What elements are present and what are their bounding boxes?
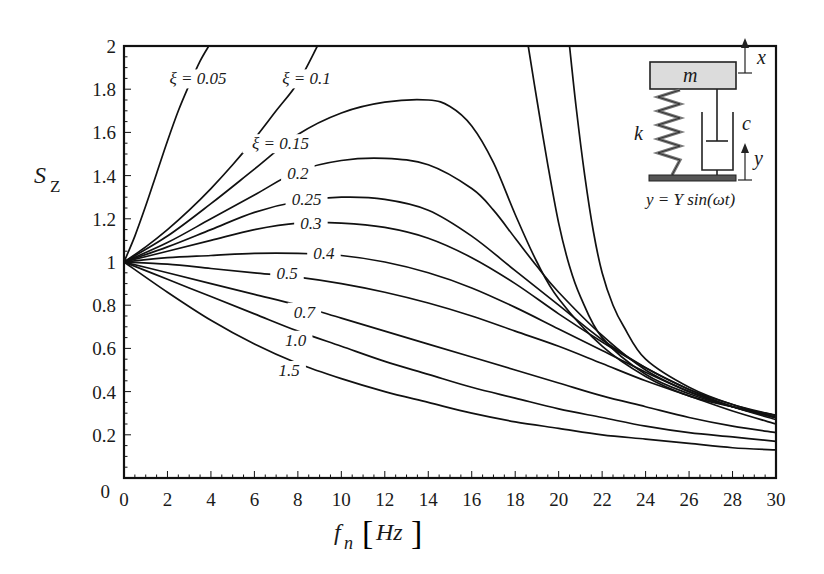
x-tick-label: 0 (119, 489, 129, 510)
curve-label: 0.3 (300, 214, 321, 233)
curve-series (124, 262, 776, 450)
x-tick-label: 30 (767, 489, 786, 510)
x-tick-label: 6 (250, 489, 260, 510)
curve-label: 0.4 (313, 244, 335, 263)
y-tick-label: 0.8 (92, 295, 116, 316)
x-tick-label: 2 (163, 489, 173, 510)
curve-label: 0.25 (292, 190, 322, 209)
x-tick-label: 20 (549, 489, 568, 510)
y-axis-ticks: 00.20.40.60.811.21.41.61.82 (92, 36, 131, 502)
curve-label: ξ = 0.1 (282, 69, 331, 88)
x-tick-label: 10 (332, 489, 351, 510)
x-tick-label: 22 (593, 489, 612, 510)
curve-series (124, 262, 776, 433)
bracket-close: ] (411, 514, 422, 551)
x-tick-label: 28 (723, 489, 742, 510)
damper-icon (702, 89, 733, 175)
svg-text:Hz: Hz (375, 519, 403, 545)
x-tick-label: 4 (206, 489, 216, 510)
svg-text:f: f (334, 519, 344, 545)
curve-series (124, 222, 776, 417)
y-tick-label: 0.2 (92, 425, 116, 446)
svg-text:m: m (683, 64, 697, 86)
plot-frame (124, 46, 776, 478)
x-tick-label: 26 (680, 489, 699, 510)
svg-text:x: x (756, 46, 766, 68)
y-axis-title: S Z (34, 162, 60, 196)
y-displacement-arrow (738, 143, 752, 180)
y-tick-label: 1 (107, 252, 117, 273)
y-tick-label: 0 (101, 481, 111, 502)
x-axis-ticks: 024681012141618202224262830 (119, 471, 785, 510)
svg-text:k: k (634, 122, 644, 144)
curves-group (124, 46, 776, 450)
y-tick-label: 2 (107, 36, 117, 57)
curve-label: 1.5 (279, 361, 300, 380)
y-tick-label: 1.6 (92, 122, 116, 143)
y-tick-label: 0.4 (92, 382, 116, 403)
svg-text:n: n (344, 533, 353, 553)
curve-label: ξ = 0.15 (252, 134, 309, 153)
svg-text:Z: Z (50, 177, 60, 196)
y-tick-label: 1.8 (92, 79, 116, 100)
svg-text:y: y (752, 147, 763, 170)
y-tick-label: 0.6 (92, 338, 116, 359)
curve-label: 0.5 (276, 264, 297, 283)
curve-series (528, 46, 776, 415)
x-tick-label: 16 (462, 489, 481, 510)
bracket-open: [ (362, 514, 373, 551)
curve-label: ξ = 0.05 (169, 69, 226, 88)
x-tick-label: 24 (636, 489, 656, 510)
inset-diagram: m k c x y y = Y sin(ωt) (634, 38, 766, 209)
y-tick-label: 1.4 (92, 166, 116, 187)
svg-text:S: S (34, 162, 46, 188)
excitation-equation: y = Y sin(ωt) (644, 190, 735, 209)
x-displacement-arrow (738, 38, 752, 73)
y-tick-label: 1.2 (92, 209, 116, 230)
x-tick-label: 12 (375, 489, 394, 510)
curve-label: 1.0 (285, 331, 307, 350)
x-tick-label: 14 (419, 489, 439, 510)
x-tick-label: 18 (506, 489, 525, 510)
svg-text:c: c (742, 112, 751, 134)
curve-label: 0.2 (287, 164, 309, 183)
curve-labels-group: ξ = 0.05ξ = 0.1ξ = 0.150.20.250.30.40.50… (160, 69, 341, 380)
base-plate (649, 175, 736, 181)
curve-label: 0.7 (294, 303, 317, 322)
x-tick-label: 8 (293, 489, 303, 510)
transmissibility-chart: ξ = 0.05ξ = 0.1ξ = 0.150.20.250.30.40.50… (0, 0, 824, 574)
curve-series (124, 253, 776, 420)
x-axis-title: f n [ Hz ] (334, 514, 422, 553)
